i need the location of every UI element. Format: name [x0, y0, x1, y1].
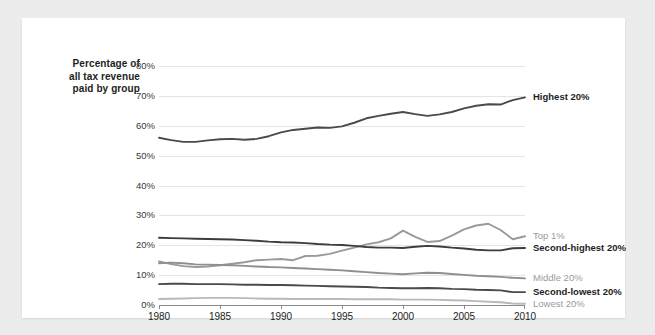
- plot-area: 1980198519901995200020052010: [159, 66, 525, 305]
- y-tick-label-80: 80%: [121, 60, 155, 71]
- series-label-lowest-20: Lowest 20%: [533, 298, 585, 309]
- chart-card: Percentage of all tax revenue paid by gr…: [22, 18, 625, 318]
- series-line-lowest-20: [159, 298, 525, 304]
- x-tick-label-1995: 1995: [320, 311, 364, 322]
- screenshot-stage: Percentage of all tax revenue paid by gr…: [0, 0, 655, 335]
- series-label-second-highest-20: Second-highest 20%: [533, 242, 626, 253]
- x-tick-1985: [220, 305, 221, 309]
- x-tick-1980: [159, 305, 160, 309]
- y-axis-tick-labels: 0%10%20%30%40%50%60%70%80%: [117, 66, 155, 305]
- x-tick-2010: [524, 305, 525, 309]
- x-tick-2005: [464, 305, 465, 309]
- y-tick-label-40: 40%: [121, 180, 155, 191]
- x-tick-1995: [342, 305, 343, 309]
- y-tick-label-70: 70%: [121, 90, 155, 101]
- x-tick-label-1980: 1980: [137, 311, 181, 322]
- x-tick-label-2010: 2010: [503, 311, 547, 322]
- y-tick-label-50: 50%: [121, 150, 155, 161]
- series-lines: [159, 66, 525, 305]
- series-line-second-highest-20: [159, 238, 525, 251]
- x-tick-label-1990: 1990: [259, 311, 303, 322]
- x-tick-label-2000: 2000: [381, 311, 425, 322]
- x-tick-label-2005: 2005: [442, 311, 486, 322]
- y-tick-label-10: 10%: [121, 269, 155, 280]
- x-tick-label-1985: 1985: [198, 311, 242, 322]
- y-tick-label-30: 30%: [121, 209, 155, 220]
- y-tick-label-60: 60%: [121, 120, 155, 131]
- series-label-middle-20: Middle 20%: [533, 272, 583, 283]
- x-tick-2000: [403, 305, 404, 309]
- x-tick-1990: [281, 305, 282, 309]
- series-line-highest-20: [159, 97, 525, 142]
- series-label-second-lowest-20: Second-lowest 20%: [533, 286, 622, 297]
- series-label-top-1: Top 1%: [533, 230, 565, 241]
- y-tick-label-20: 20%: [121, 239, 155, 250]
- series-label-highest-20: Highest 20%: [533, 91, 590, 102]
- series-line-middle-20: [159, 263, 525, 279]
- y-tick-label-0: 0%: [121, 299, 155, 310]
- series-line-second-lowest-20: [159, 284, 525, 292]
